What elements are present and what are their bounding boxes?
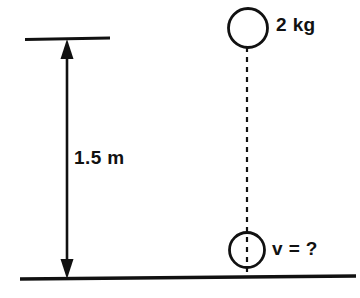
height-label: 1.5 m [74, 148, 125, 167]
ground-line [20, 276, 356, 279]
arrowhead-down-icon [61, 259, 74, 279]
velocity-label: v = ? [272, 239, 318, 258]
arrowhead-up-icon [61, 39, 74, 59]
top-ball-icon [229, 9, 268, 48]
mass-label: 2 kg [276, 15, 316, 34]
physics-diagram: 2 kg 1.5 m v = ? [0, 0, 360, 298]
top-reference-line [25, 38, 110, 40]
